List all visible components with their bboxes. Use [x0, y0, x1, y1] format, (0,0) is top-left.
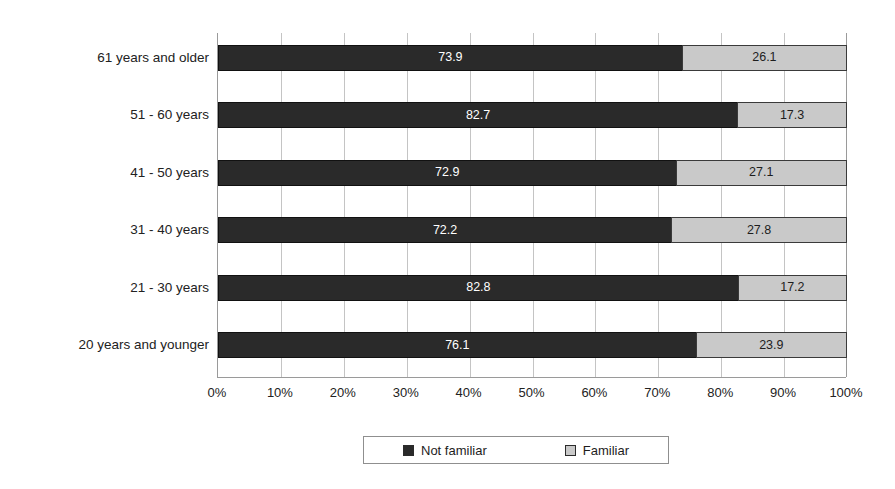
gridline [721, 33, 722, 377]
bar-segment-not-familiar[interactable]: 82.8 [218, 275, 739, 301]
x-tick-label: 50% [518, 385, 544, 400]
gridline [344, 33, 345, 377]
x-axis-tick-labels: 0%10%20%30%40%50%60%70%80%90%100% [217, 385, 846, 403]
gridline [784, 33, 785, 377]
legend-swatch-icon [403, 445, 414, 456]
category-label: 21 - 30 years [0, 281, 209, 295]
bar-value-label: 17.3 [780, 109, 804, 122]
legend-swatch-icon [565, 445, 576, 456]
bar-segment-familiar[interactable]: 17.2 [738, 275, 847, 301]
category-label: 41 - 50 years [0, 166, 209, 180]
gridline [470, 33, 471, 377]
x-tick-label: 80% [707, 385, 733, 400]
plot-area: 73.926.182.717.372.927.172.227.882.817.2… [217, 33, 846, 378]
bar-segment-not-familiar[interactable]: 72.2 [218, 217, 672, 243]
bar-value-label: 27.1 [749, 166, 773, 179]
x-tick-label: 100% [829, 385, 862, 400]
x-tick-label: 60% [581, 385, 607, 400]
x-tick-label: 20% [330, 385, 356, 400]
bar-row[interactable]: 82.817.2 [218, 275, 847, 301]
gridline [407, 33, 408, 377]
x-tick-label: 40% [456, 385, 482, 400]
bar-segment-familiar[interactable]: 27.8 [671, 217, 847, 243]
gridline [533, 33, 534, 377]
category-label: 20 years and younger [0, 338, 209, 352]
legend-label: Familiar [583, 443, 629, 458]
chart-title [0, 0, 895, 3]
x-tick-label: 10% [267, 385, 293, 400]
bar-segment-not-familiar[interactable]: 82.7 [218, 102, 738, 128]
stacked-bar-chart: 61 years and older51 - 60 years41 - 50 y… [0, 0, 895, 489]
bar-value-label: 26.1 [752, 51, 776, 64]
x-tick-label: 0% [208, 385, 227, 400]
bar-row[interactable]: 76.123.9 [218, 332, 847, 358]
gridline [281, 33, 282, 377]
category-label: 61 years and older [0, 51, 209, 65]
gridline [595, 33, 596, 377]
category-label: 51 - 60 years [0, 108, 209, 122]
bar-segment-not-familiar[interactable]: 73.9 [218, 45, 683, 71]
bar-value-label: 76.1 [445, 339, 469, 352]
bar-value-label: 17.2 [780, 281, 804, 294]
gridline [658, 33, 659, 377]
legend-label: Not familiar [421, 443, 487, 458]
bar-row[interactable]: 72.227.8 [218, 217, 847, 243]
x-tick-label: 70% [644, 385, 670, 400]
bar-row[interactable]: 82.717.3 [218, 102, 847, 128]
bar-value-label: 72.2 [433, 224, 457, 237]
bar-value-label: 72.9 [435, 166, 459, 179]
category-axis-labels: 61 years and older51 - 60 years41 - 50 y… [0, 33, 209, 378]
bar-segment-familiar[interactable]: 27.1 [676, 160, 847, 186]
x-tick-label: 90% [770, 385, 796, 400]
bar-segment-not-familiar[interactable]: 76.1 [218, 332, 697, 358]
bar-value-label: 27.8 [747, 224, 771, 237]
bar-row[interactable]: 73.926.1 [218, 45, 847, 71]
x-tick-label: 30% [393, 385, 419, 400]
bar-value-label: 73.9 [438, 51, 462, 64]
bar-segment-not-familiar[interactable]: 72.9 [218, 160, 677, 186]
legend-item[interactable]: Not familiar [403, 443, 487, 458]
bar-value-label: 82.7 [466, 109, 490, 122]
bar-row[interactable]: 72.927.1 [218, 160, 847, 186]
category-label: 31 - 40 years [0, 223, 209, 237]
legend-item[interactable]: Familiar [565, 443, 629, 458]
bar-segment-familiar[interactable]: 17.3 [737, 102, 847, 128]
gridline [846, 33, 847, 377]
bar-value-label: 82.8 [466, 281, 490, 294]
chart-legend: Not familiarFamiliar [363, 436, 669, 464]
bar-segment-familiar[interactable]: 26.1 [682, 45, 847, 71]
bar-value-label: 23.9 [759, 339, 783, 352]
bar-segment-familiar[interactable]: 23.9 [696, 332, 847, 358]
